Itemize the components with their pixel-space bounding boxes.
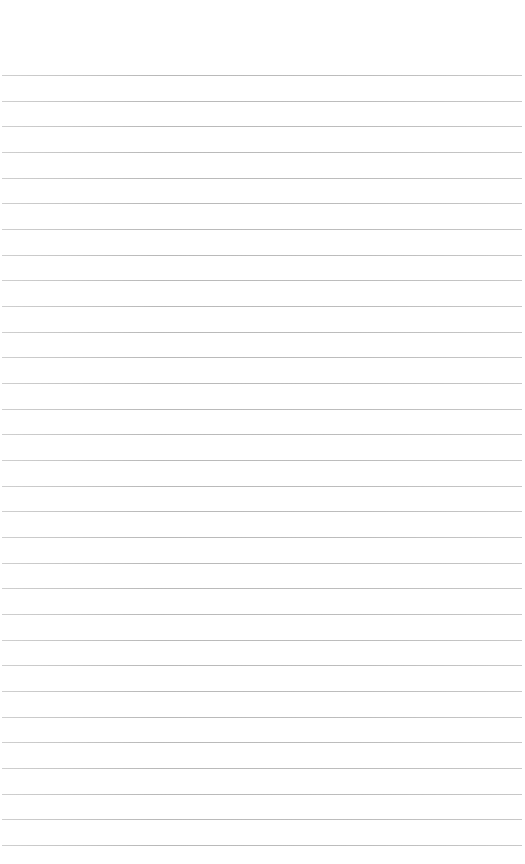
ruled-line <box>2 665 522 666</box>
ruled-line <box>2 537 522 538</box>
ruled-line <box>2 126 522 127</box>
ruled-line <box>2 255 522 256</box>
ruled-line <box>2 819 522 820</box>
ruled-line <box>2 845 522 846</box>
ruled-line <box>2 306 522 307</box>
ruled-line <box>2 486 522 487</box>
ruled-line <box>2 178 522 179</box>
ruled-line <box>2 434 522 435</box>
ruled-line <box>2 409 522 410</box>
ruled-line <box>2 742 522 743</box>
ruled-line <box>2 101 522 102</box>
ruled-line <box>2 357 522 358</box>
ruled-line <box>2 563 522 564</box>
ruled-line <box>2 280 522 281</box>
ruled-line <box>2 229 522 230</box>
ruled-line <box>2 332 522 333</box>
ruled-line <box>2 691 522 692</box>
ruled-line <box>2 768 522 769</box>
ruled-line <box>2 152 522 153</box>
ruled-line <box>2 794 522 795</box>
ruled-line <box>2 511 522 512</box>
ruled-line <box>2 614 522 615</box>
ruled-line <box>2 75 522 76</box>
ruled-line <box>2 588 522 589</box>
ruled-line <box>2 640 522 641</box>
lined-paper-page <box>0 0 525 864</box>
ruled-line <box>2 717 522 718</box>
ruled-line <box>2 203 522 204</box>
ruled-line <box>2 383 522 384</box>
ruled-line <box>2 460 522 461</box>
